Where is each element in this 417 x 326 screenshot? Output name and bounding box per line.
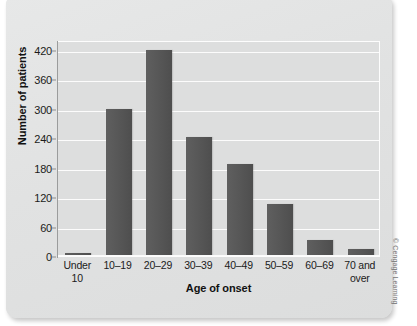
y-tick-label: 180 <box>34 163 52 175</box>
y-axis-title: Number of patients <box>16 36 28 156</box>
x-axis-baseline <box>58 255 379 256</box>
x-tick-label: 10–19 <box>97 259 137 272</box>
copyright-credit: © Cengage Learning <box>392 238 399 305</box>
x-tick-label-line: 40–49 <box>219 259 259 272</box>
bar-column <box>139 41 179 255</box>
x-tick-label: 50–59 <box>259 259 299 272</box>
figure-background: 060120180240300360420 Under1010–1920–293… <box>6 0 392 318</box>
x-tick-label-line: 30–39 <box>178 259 218 272</box>
x-tick-label: 70 andover <box>340 259 380 284</box>
y-tick-mark <box>52 257 56 258</box>
bar <box>307 240 333 255</box>
y-axis-ticks: 060120180240300360420 <box>6 41 52 257</box>
x-tick-label-line: 70 and <box>340 259 380 272</box>
bar-column <box>58 41 98 255</box>
bar-column <box>179 41 219 255</box>
bar-column <box>341 41 381 255</box>
bar <box>146 50 172 255</box>
x-tick-label-line: 50–59 <box>259 259 299 272</box>
bar-column <box>98 41 138 255</box>
bar <box>186 137 212 255</box>
y-tick-label: 60 <box>40 222 52 234</box>
x-tick-label-line: 20–29 <box>138 259 178 272</box>
x-axis-title: Age of onset <box>57 282 380 294</box>
bar <box>106 109 132 255</box>
x-tick-label: Under10 <box>57 259 97 284</box>
y-tick-label: 420 <box>34 45 52 57</box>
chart-plot-area <box>57 41 380 257</box>
x-tick-label-line: Under <box>57 259 97 272</box>
y-tick-label: 360 <box>34 74 52 86</box>
y-tick-label: 120 <box>34 192 52 204</box>
y-tick-mark <box>52 227 56 228</box>
x-tick-label: 60–69 <box>299 259 339 272</box>
x-tick-label: 20–29 <box>138 259 178 272</box>
x-tick-label-line: 10–19 <box>97 259 137 272</box>
y-axis-line <box>57 41 58 258</box>
y-tick-mark <box>52 139 56 140</box>
bar-column <box>300 41 340 255</box>
y-tick-label: 300 <box>34 104 52 116</box>
x-tick-label: 40–49 <box>219 259 259 272</box>
bar <box>267 204 293 255</box>
y-tick-mark <box>52 50 56 51</box>
bar-column <box>220 41 260 255</box>
bar <box>227 164 253 255</box>
bar-column <box>260 41 300 255</box>
y-tick-mark <box>52 168 56 169</box>
x-tick-label: 30–39 <box>178 259 218 272</box>
y-tick-mark <box>52 198 56 199</box>
y-tick-label: 240 <box>34 133 52 145</box>
x-tick-label-line: 60–69 <box>299 259 339 272</box>
y-tick-mark <box>52 80 56 81</box>
figure-card: 060120180240300360420 Under1010–1920–293… <box>6 0 392 318</box>
y-tick-mark <box>52 109 56 110</box>
